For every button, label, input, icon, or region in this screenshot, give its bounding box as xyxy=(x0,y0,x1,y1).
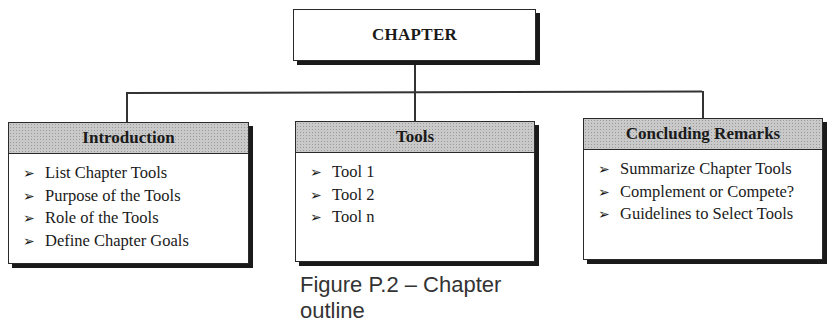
connector-root-down xyxy=(414,61,416,94)
connector-tools xyxy=(414,93,416,121)
tools-box: Tools ➢Tool 1 ➢Tool 2 ➢Tool n xyxy=(295,121,535,262)
arrow-bullet-icon: ➢ xyxy=(23,231,45,253)
list-item: ➢List Chapter Tools xyxy=(23,162,248,185)
list-item: ➢Complement or Compete? xyxy=(598,181,822,204)
concluding-remarks-header: Concluding Remarks xyxy=(584,119,822,150)
list-item: ➢Tool n xyxy=(310,206,534,229)
concluding-remarks-list: ➢Summarize Chapter Tools ➢Complement or … xyxy=(584,150,822,226)
introduction-header: Introduction xyxy=(9,123,248,154)
list-item: ➢Tool 1 xyxy=(310,161,534,184)
introduction-list: ➢List Chapter Tools ➢Purpose of the Tool… xyxy=(9,154,248,252)
arrow-bullet-icon: ➢ xyxy=(598,204,620,226)
introduction-box: Introduction ➢List Chapter Tools ➢Purpos… xyxy=(8,122,249,264)
concluding-remarks-box: Concluding Remarks ➢Summarize Chapter To… xyxy=(583,118,823,260)
connector-intro xyxy=(126,93,128,122)
tools-header: Tools xyxy=(296,122,534,153)
arrow-bullet-icon: ➢ xyxy=(598,182,620,204)
list-item: ➢Purpose of the Tools xyxy=(23,185,248,208)
arrow-bullet-icon: ➢ xyxy=(23,186,45,208)
arrow-bullet-icon: ➢ xyxy=(310,185,332,207)
arrow-bullet-icon: ➢ xyxy=(310,207,332,229)
list-item: ➢Summarize Chapter Tools xyxy=(598,158,822,181)
chapter-box: CHAPTER xyxy=(293,9,536,61)
arrow-bullet-icon: ➢ xyxy=(598,159,620,181)
list-item: ➢Tool 2 xyxy=(310,184,534,207)
connector-concluding xyxy=(702,91,704,118)
list-item: ➢Role of the Tools xyxy=(23,207,248,230)
chapter-title: CHAPTER xyxy=(372,25,457,45)
figure-caption: Figure P.2 – Chapter outline xyxy=(300,272,560,322)
arrow-bullet-icon: ➢ xyxy=(23,208,45,230)
arrow-bullet-icon: ➢ xyxy=(23,163,45,185)
list-item: ➢Define Chapter Goals xyxy=(23,230,248,253)
arrow-bullet-icon: ➢ xyxy=(310,162,332,184)
tools-list: ➢Tool 1 ➢Tool 2 ➢Tool n xyxy=(296,153,534,229)
list-item: ➢Guidelines to Select Tools xyxy=(598,203,822,226)
